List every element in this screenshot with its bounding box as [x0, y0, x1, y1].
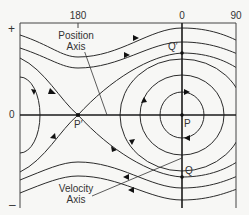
- arrow-icon: [141, 97, 147, 103]
- left-label-plus: +: [8, 23, 15, 35]
- arrow-icon: [184, 135, 190, 141]
- point-q: [180, 175, 184, 179]
- velocity-axis-leader: [92, 158, 182, 196]
- position-axis-label-line2: Axis: [67, 42, 86, 52]
- upper-trajectory-1: [20, 28, 240, 57]
- arrow-icon: [123, 174, 129, 180]
- arrow-icon: [128, 187, 134, 193]
- left-label-minus: –: [9, 199, 16, 211]
- arrow-icon: [129, 139, 135, 145]
- velocity-axis-label-line1: Velocity: [59, 184, 93, 194]
- phase-portrait-plot: [0, 0, 249, 215]
- top-label-90: 90: [230, 11, 241, 21]
- left-label-zero: 0: [9, 110, 15, 120]
- point-p: [180, 113, 184, 117]
- point-p-prime: [76, 113, 80, 117]
- velocity-axis-label-line2: Axis: [67, 195, 86, 205]
- top-label-180: 180: [70, 11, 87, 21]
- arrow-icon: [31, 89, 36, 95]
- point-q-prime: [180, 51, 184, 55]
- label-q: Q: [185, 166, 193, 176]
- label-p: P: [184, 119, 191, 129]
- position-axis-label-line1: Position: [58, 31, 94, 41]
- top-label-0: 0: [179, 11, 185, 21]
- arrow-icon: [50, 133, 56, 139]
- label-q-prime: Q′: [168, 42, 178, 52]
- arrow-icon: [184, 89, 190, 95]
- label-p-prime: P′: [74, 120, 83, 130]
